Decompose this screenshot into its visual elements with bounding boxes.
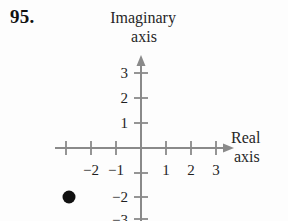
- x-tick-label-3: 3: [205, 163, 227, 178]
- y-tick-label-1: 1: [108, 116, 128, 131]
- x-tick-label-1: 1: [155, 163, 177, 178]
- x-tick-label-neg1: −1: [105, 163, 127, 178]
- plotted-point: [63, 191, 76, 204]
- complex-plane-plot: [0, 0, 288, 221]
- x-tick-label-neg2: −2: [80, 163, 102, 178]
- y-tick-label-3: 3: [108, 66, 128, 81]
- y-tick-label-2: 2: [108, 91, 128, 106]
- y-tick-label-neg2: −2: [104, 190, 128, 205]
- figure-panel: 95. Imaginary axis Real axis: [0, 0, 288, 221]
- y-tick-label-neg3: −3: [104, 213, 128, 221]
- x-tick-label-2: 2: [180, 163, 202, 178]
- real-axis-line: [55, 144, 234, 153]
